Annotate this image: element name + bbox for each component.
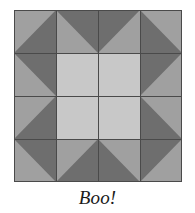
center-bottom-right-square <box>98 96 140 139</box>
quilt-block-svg <box>14 10 182 182</box>
center-top-left-square <box>56 53 98 96</box>
center-bottom-left-square <box>56 96 98 139</box>
center-top-right-square <box>98 53 140 96</box>
quilt-block <box>14 10 182 182</box>
figure-caption: Boo! <box>0 186 195 210</box>
quilt-block-figure: Boo! <box>0 0 195 213</box>
